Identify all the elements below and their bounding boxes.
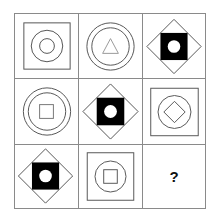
puzzle-grid: ? [14,13,206,209]
cell-1-2 [79,14,143,79]
square-circle-circle-figure [15,14,78,78]
cell-3-2 [79,145,143,208]
diamond-filled-square-circle-figure [15,145,78,208]
circle-circle-triangle-figure [79,14,142,78]
question-mark: ? [143,145,205,208]
cell-2-3 [143,79,205,145]
diamond-filled-square-circle-figure [79,79,142,144]
cell-1-3 [143,14,205,79]
cell-1-1 [15,14,79,79]
square-circle-diamond-figure [143,79,205,144]
cell-2-2 [79,79,143,145]
cell-3-1 [15,145,79,208]
cell-3-3-answer[interactable]: ? [143,145,205,208]
square-circle-square-figure [79,145,142,208]
diamond-filled-square-circle-figure [143,14,205,78]
circle-circle-square-figure [15,79,78,144]
cell-2-1 [15,79,79,145]
